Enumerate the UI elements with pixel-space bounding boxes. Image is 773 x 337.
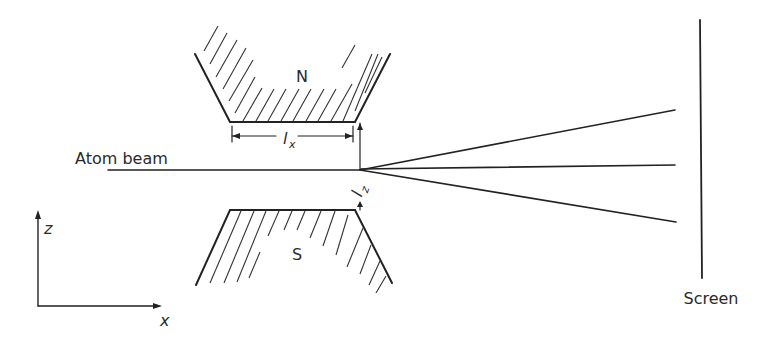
- screen-label: Screen: [683, 289, 738, 308]
- length-z-dimension: l z: [347, 181, 372, 200]
- beam-lower: [360, 170, 676, 222]
- length-x-label: l: [283, 129, 288, 148]
- exit-guide-arrow-icon: [357, 123, 363, 130]
- split-beams: [360, 110, 676, 222]
- length-x-dimension: l x: [232, 126, 353, 151]
- stern-gerlach-diagram: N l x Atom beam l z: [0, 0, 773, 337]
- beam-middle: [360, 165, 675, 169]
- x-axis-label: x: [159, 311, 170, 330]
- gap-arrow-icon: [357, 201, 363, 207]
- z-axis-label: z: [43, 219, 53, 238]
- coordinate-axes: z x: [35, 210, 170, 330]
- atom-beam-label: Atom beam: [75, 149, 168, 168]
- north-pole-piece: N: [195, 26, 390, 122]
- south-pole-piece: S: [196, 210, 392, 293]
- south-pole-label: S: [292, 245, 302, 264]
- north-pole-label: N: [296, 67, 308, 86]
- beam-upper: [360, 110, 675, 170]
- screen: [700, 20, 702, 278]
- north-pole-hatching: [204, 26, 382, 121]
- z-axis-arrow-icon: [35, 210, 41, 219]
- length-x-subscript: x: [288, 138, 296, 151]
- x-axis-arrow-icon: [153, 303, 162, 309]
